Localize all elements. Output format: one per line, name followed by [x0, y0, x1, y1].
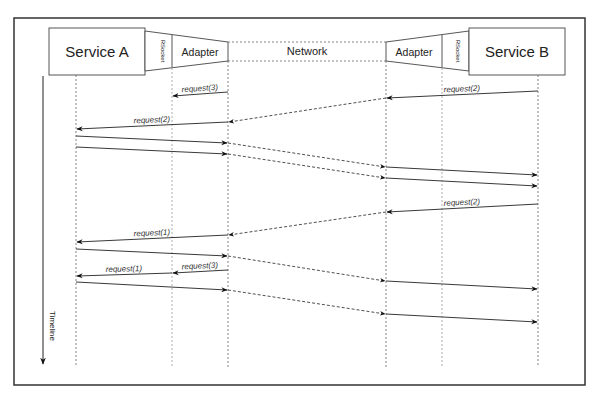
message-label: request(2): [133, 115, 170, 126]
message-label: request(2): [443, 84, 480, 95]
timeline-label: Timeline: [48, 311, 57, 341]
sequence-diagram: Network Service A RSocket Adapter Adapte…: [0, 0, 596, 397]
message-label: request(1): [133, 228, 170, 239]
participant-service-b: Service B: [469, 28, 565, 75]
message-label: request(1): [106, 264, 143, 274]
adapter-a-label: Adapter: [182, 46, 219, 58]
service-b-label: Service B: [485, 43, 549, 60]
rsocket-b-label: RSocket: [455, 40, 461, 63]
service-a-label: Service A: [65, 43, 128, 60]
participant-service-a: Service A: [49, 28, 145, 75]
network-label: Network: [287, 45, 328, 57]
rsocket-a-label: RSocket: [160, 40, 166, 63]
adapter-b-label: Adapter: [396, 46, 433, 58]
